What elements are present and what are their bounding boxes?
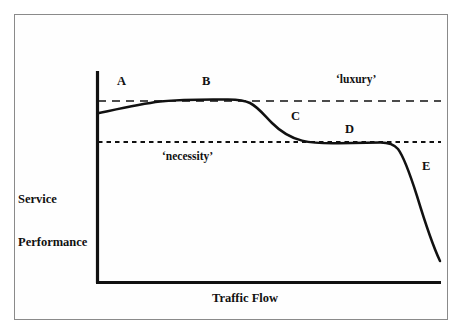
luxury-line-label: ‘luxury’ <box>336 73 376 86</box>
y-axis-title-line2: Performance <box>18 235 87 249</box>
annotation-label-c: C <box>291 109 300 123</box>
necessity-line-label: ‘necessity’ <box>162 150 213 163</box>
annotation-label-d: D <box>345 122 354 136</box>
figure-container: A B C D E ‘luxury’ ‘necessity’ Traffic F… <box>0 0 463 336</box>
y-axis-title: Service Performance <box>18 163 87 278</box>
service-performance-curve <box>99 99 440 261</box>
annotation-label-b: B <box>202 74 211 88</box>
annotation-label-a: A <box>117 74 126 88</box>
annotation-label-e: E <box>422 159 431 173</box>
x-axis-title: Traffic Flow <box>212 291 278 305</box>
y-axis-title-line1: Service <box>18 192 87 206</box>
